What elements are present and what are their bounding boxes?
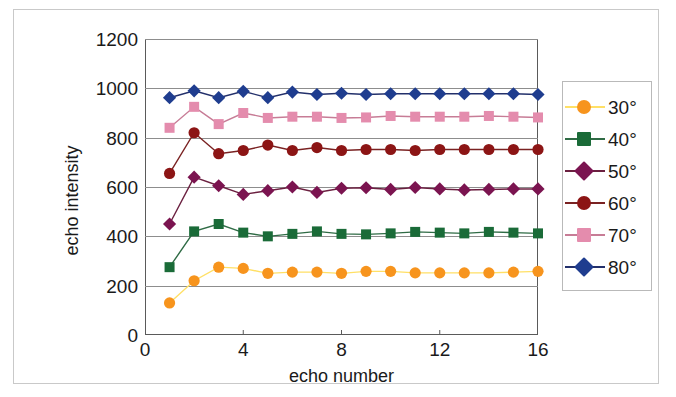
data-point — [484, 227, 494, 237]
data-point — [214, 219, 224, 229]
data-point — [410, 267, 421, 278]
legend-item-30deg[interactable]: 30° — [563, 90, 653, 124]
series-line — [170, 224, 538, 267]
data-point — [434, 267, 445, 278]
legend-marker-square-icon — [577, 132, 591, 146]
legend-key — [563, 92, 607, 122]
series-layer — [145, 39, 538, 335]
data-point — [410, 227, 420, 237]
legend-item-80deg[interactable]: 80° — [563, 250, 653, 284]
data-point — [385, 266, 396, 277]
data-point — [508, 267, 519, 278]
data-point — [410, 145, 421, 156]
data-point — [361, 112, 371, 122]
legend-label: 70° — [607, 226, 637, 245]
data-point — [359, 181, 372, 194]
data-point — [263, 113, 273, 123]
legend-marker-square-icon — [577, 228, 591, 242]
data-point — [433, 182, 446, 195]
data-point — [433, 87, 446, 100]
data-point — [311, 142, 322, 153]
legend-key — [563, 188, 607, 218]
data-point — [458, 87, 471, 100]
data-point — [238, 263, 249, 274]
data-point — [212, 91, 225, 104]
data-point — [508, 144, 519, 155]
x-axis-tick-label: 0 — [140, 340, 151, 359]
data-point — [213, 262, 224, 273]
data-point — [165, 262, 175, 272]
data-point — [287, 267, 298, 278]
data-point — [164, 168, 175, 179]
series-6 — [163, 84, 545, 104]
x-axis-tick-label: 12 — [429, 340, 450, 359]
legend-item-60deg[interactable]: 60° — [563, 186, 653, 220]
data-point — [188, 171, 201, 184]
y-axis-tick-label: 400 — [30, 227, 138, 246]
legend-label: 80° — [607, 258, 637, 277]
legend-label: 50° — [607, 162, 637, 181]
x-axis-tick-label: 8 — [336, 340, 347, 359]
data-point — [410, 112, 420, 122]
data-point — [385, 144, 396, 155]
data-point — [434, 144, 445, 155]
legend-label: 40° — [607, 130, 637, 149]
data-point — [286, 180, 299, 193]
data-point — [189, 127, 200, 138]
data-point — [409, 87, 422, 100]
x-axis-tick-label: 4 — [238, 340, 249, 359]
data-point — [507, 182, 520, 195]
data-point — [312, 226, 322, 236]
data-point — [360, 266, 371, 277]
x-axis-title: echo number — [145, 366, 538, 387]
data-point — [533, 112, 543, 122]
data-point — [459, 228, 469, 238]
y-axis-tick-labels: 120010008006004002000 — [28, 39, 138, 335]
data-point — [483, 267, 494, 278]
data-point — [508, 228, 518, 238]
data-point — [336, 268, 347, 279]
legend-key — [563, 124, 607, 154]
data-point — [435, 112, 445, 122]
data-point — [164, 297, 175, 308]
legend-label: 60° — [607, 194, 637, 213]
y-axis-tick-label: 800 — [30, 129, 138, 148]
data-point — [188, 84, 201, 97]
data-point — [262, 139, 273, 150]
legend-marker-circle-icon — [577, 196, 591, 210]
data-point — [337, 113, 347, 123]
data-point — [482, 183, 495, 196]
series-line — [170, 177, 538, 224]
data-point — [482, 87, 495, 100]
data-point — [214, 119, 224, 129]
data-point — [459, 144, 470, 155]
data-point — [361, 229, 371, 239]
data-point — [483, 144, 494, 155]
data-point — [484, 111, 494, 121]
legend-item-70deg[interactable]: 70° — [563, 218, 653, 252]
legend-marker-circle-icon — [577, 100, 591, 114]
data-point — [458, 183, 471, 196]
data-point — [386, 228, 396, 238]
data-point — [359, 88, 372, 101]
data-point — [310, 88, 323, 101]
data-point — [165, 123, 175, 133]
data-point — [213, 148, 224, 159]
figure-frame: echo intensity 120010008006004002000 048… — [13, 9, 659, 384]
data-point — [507, 87, 520, 100]
series-1 — [164, 262, 544, 309]
data-point — [336, 145, 347, 156]
y-axis-tick-label: 0 — [30, 326, 138, 345]
data-point — [531, 182, 544, 195]
legend-key — [563, 156, 607, 186]
x-axis-tick-labels: 0481216 — [145, 340, 538, 366]
data-point — [409, 181, 422, 194]
legend-item-50deg[interactable]: 50° — [563, 154, 653, 188]
data-point — [459, 112, 469, 122]
legend-item-40deg[interactable]: 40° — [563, 122, 653, 156]
data-point — [261, 184, 274, 197]
data-point — [263, 231, 273, 241]
series-line — [170, 267, 538, 303]
data-point — [311, 267, 322, 278]
data-point — [287, 229, 297, 239]
